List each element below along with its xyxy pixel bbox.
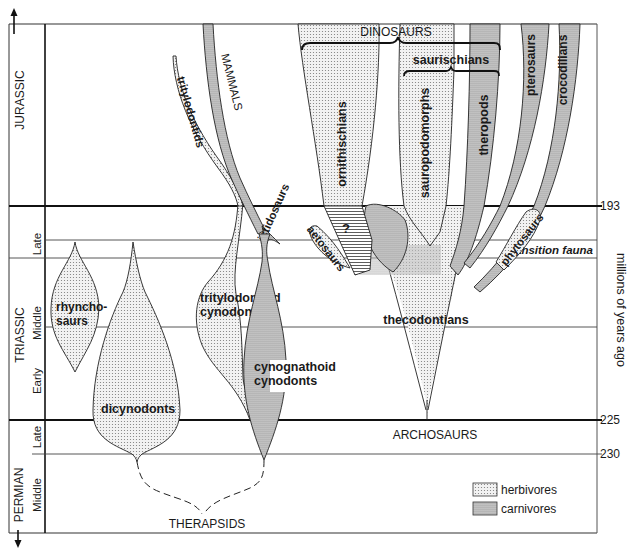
mammals-lineage <box>203 24 265 234</box>
tick-230: 230 <box>600 447 620 461</box>
theropods-label: theropods <box>477 94 491 155</box>
legend-herbivores-label: herbivores <box>501 483 557 497</box>
dicynodonts-label: dicynodonts <box>101 402 175 416</box>
legend: herbivores carnivores <box>473 483 557 516</box>
therapsids-connector <box>137 460 264 514</box>
epoch-triassic-late: Late <box>31 233 43 255</box>
tritylodontids-label: tritylodontids <box>175 75 207 149</box>
time-arrow-up-icon <box>11 8 18 34</box>
tick-193: 193 <box>600 199 620 213</box>
evolution-diagram: JURASSIC TRIASSIC PERMIAN Late Middle Ea… <box>0 0 631 550</box>
period-jurassic: JURASSIC <box>13 70 27 130</box>
crocodilians-label: crocodilians <box>556 34 570 105</box>
legend-carnivores-label: carnivores <box>501 502 556 516</box>
epoch-permian-middle: Middle <box>31 478 43 512</box>
legend-carnivores-swatch <box>473 502 497 515</box>
period-permian: PERMIAN <box>12 468 26 523</box>
period-triassic: TRIASSIC <box>13 307 27 363</box>
cynognathoid-label-2: cynodonts <box>254 374 317 388</box>
time-axis-label: millions of years ago <box>614 253 628 367</box>
pterosaurs-label: pterosaurs <box>524 34 538 96</box>
unknown-label: ? <box>342 221 350 236</box>
legend-herbivores-swatch <box>473 483 497 496</box>
epoch-triassic-early: Early <box>31 368 43 394</box>
mammals-label: MAMMALS <box>219 52 245 112</box>
dinosaurs-label: DINOSAURS <box>360 25 431 39</box>
sauropodomorphs-label: sauropodomorphs <box>418 88 432 198</box>
archosaurs-label: ARCHOSAURS <box>393 428 478 442</box>
therapsids-label: THERAPSIDS <box>169 517 246 531</box>
ornithischians-label: ornithischians <box>335 101 349 186</box>
frame <box>9 24 597 533</box>
cynognathoid-label-1: cynognathoid <box>254 360 336 374</box>
tick-225: 225 <box>600 413 620 427</box>
cynognathoid-cynodonts-lineage <box>244 234 286 460</box>
saurischians-label: saurischians <box>413 53 489 67</box>
epoch-permian-late: Late <box>31 426 43 448</box>
thecodontians-label: thecodontians <box>383 313 468 327</box>
rhynchosaurs-label-2: saurs <box>56 314 88 328</box>
epoch-triassic-middle: Middle <box>31 306 43 340</box>
rhynchosaurs-label-1: rhyncho- <box>56 300 107 314</box>
dicynodonts-lineage <box>93 242 180 462</box>
